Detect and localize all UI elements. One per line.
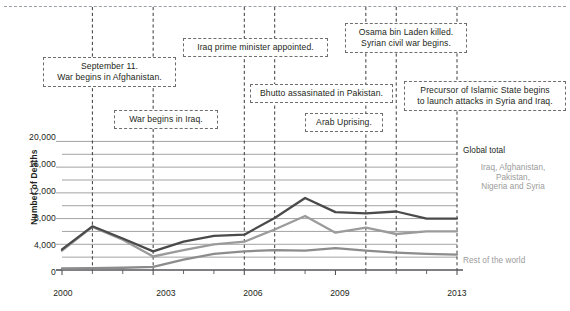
- series-label-global-total: Global total: [463, 146, 505, 156]
- x-tick-2009: 2009: [317, 288, 363, 298]
- annotation-september-11[interactable]: September 11. War begins in Afghanistan.: [43, 57, 176, 87]
- x-tick-2003: 2003: [143, 288, 189, 298]
- annotation-bin-laden-killed[interactable]: Osama bin Laden killed. Syrian civil war…: [345, 23, 467, 53]
- y-tick-8000: 8,000: [10, 213, 56, 223]
- series-lines-group: [62, 198, 457, 268]
- series-line-rest-of-world: [62, 248, 457, 268]
- annotation-war-begins-iraq[interactable]: War begins in Iraq.: [114, 110, 218, 129]
- series-label-rest-of-world: Rest of the world: [463, 256, 525, 266]
- x-tick-2000: 2000: [40, 288, 86, 298]
- figure-container: Number of Deaths 20,000 16,000 12,000 8,…: [0, 0, 570, 311]
- y-tick-0: 0: [10, 267, 56, 277]
- series-label-five-countries: Iraq, Afghanistan, Pakistan, Nigeria and…: [461, 163, 565, 192]
- y-tick-4000: 4,000: [10, 240, 56, 250]
- annotation-islamic-state-precursor[interactable]: Precursor of Islamic State begins to lau…: [404, 81, 566, 111]
- x-tick-2013: 2013: [434, 288, 480, 298]
- annotation-bhutto-assassinated[interactable]: Bhutto assasinated in Pakistan.: [250, 84, 393, 103]
- annotation-arab-uprising[interactable]: Arab Uprising.: [305, 113, 383, 132]
- x-tick-2006: 2006: [230, 288, 276, 298]
- y-tick-12000: 12,000: [10, 186, 56, 196]
- y-tick-20000: 20,000: [10, 132, 56, 142]
- annotation-iraq-prime-minister[interactable]: Iraq prime minister appointed.: [183, 38, 328, 57]
- y-tick-16000: 16,000: [10, 159, 56, 169]
